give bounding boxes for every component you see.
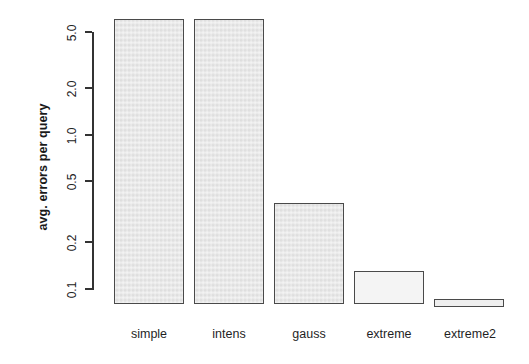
bar-gauss bbox=[274, 203, 344, 304]
bar-simple bbox=[114, 19, 184, 304]
y-tick-label-0-1: 0.1 bbox=[65, 270, 79, 310]
x-tick-label-simple: simple bbox=[114, 327, 184, 341]
x-tick-label-extreme2: extreme2 bbox=[432, 327, 508, 341]
y-axis-tick-0-1 bbox=[85, 288, 92, 290]
bar-intens bbox=[194, 19, 264, 304]
y-axis-line bbox=[92, 32, 94, 290]
y-axis-tick-0-2 bbox=[85, 241, 92, 243]
bar-chart: avg. errors per query 5.0 2.0 1.0 0.5 0.… bbox=[0, 0, 529, 364]
y-axis-tick-0-5 bbox=[85, 180, 92, 182]
x-tick-label-gauss: gauss bbox=[274, 327, 344, 341]
bar-extreme bbox=[354, 271, 424, 304]
y-axis-tick-5 bbox=[85, 31, 92, 33]
bar-extreme2 bbox=[434, 299, 504, 307]
y-axis-tick-2 bbox=[85, 87, 92, 89]
x-tick-label-extreme: extreme bbox=[354, 327, 424, 341]
x-tick-label-intens: intens bbox=[194, 327, 264, 341]
y-tick-label-2: 2.0 bbox=[65, 69, 79, 109]
y-axis-tick-1 bbox=[85, 134, 92, 136]
y-tick-label-5: 5.0 bbox=[65, 13, 79, 53]
y-tick-label-0-2: 0.2 bbox=[65, 223, 79, 263]
y-tick-label-1: 1.0 bbox=[65, 116, 79, 156]
y-tick-label-0-5: 0.5 bbox=[65, 162, 79, 202]
y-axis-title: avg. errors per query bbox=[36, 37, 50, 297]
